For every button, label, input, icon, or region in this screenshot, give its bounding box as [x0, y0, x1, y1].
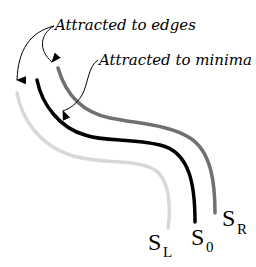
svg-text:S: S [148, 229, 161, 255]
svg-text:S: S [191, 224, 204, 250]
label-s-left: S L [148, 229, 172, 260]
label-attracted-to-edges: Attracted to edges [53, 16, 196, 34]
diagram-canvas: Attracted to edges Attracted to minima S… [0, 0, 256, 267]
svg-text:0: 0 [206, 239, 214, 255]
svg-text:L: L [163, 244, 172, 260]
label-s-right: S R [222, 205, 247, 237]
svg-text:R: R [237, 221, 247, 237]
arrow-edges-to-left [17, 26, 54, 80]
label-s-zero: S 0 [191, 224, 214, 255]
svg-text:S: S [222, 205, 235, 231]
label-attracted-to-minima: Attracted to minima [97, 51, 252, 69]
arrow-edges-to-right [42, 26, 54, 62]
